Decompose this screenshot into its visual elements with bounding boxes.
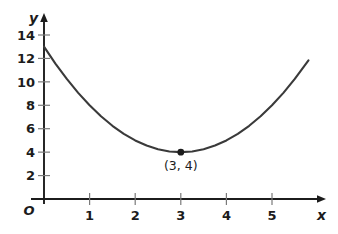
origin-label: O — [23, 203, 34, 218]
parabola-chart: y x O 2 4 6 8 10 12 14 — [0, 0, 338, 234]
x-tick-label: 2 — [131, 208, 140, 223]
x-tick-label: 3 — [176, 208, 185, 223]
y-tick-label: 10 — [17, 75, 35, 90]
x-axis-arrow-icon — [317, 195, 326, 203]
y-tick-label: 8 — [26, 98, 35, 113]
x-tick-label: 1 — [85, 208, 94, 223]
y-tick-label: 2 — [26, 168, 35, 183]
x-tick-labels: 1 2 3 4 5 — [85, 208, 276, 223]
y-tick-label: 14 — [17, 28, 35, 43]
y-tick-label: 4 — [26, 145, 35, 160]
y-tick-label: 6 — [26, 121, 35, 136]
chart-canvas: y x O 2 4 6 8 10 12 14 — [0, 0, 338, 234]
y-axis-label: y — [29, 10, 39, 26]
x-tick-label: 4 — [222, 208, 231, 223]
y-axis-arrow-icon — [40, 13, 48, 22]
y-tick-labels: 2 4 6 8 10 12 14 — [17, 28, 35, 184]
parabola-curve — [44, 47, 308, 152]
x-axis-label: x — [316, 207, 327, 223]
x-tick-label: 5 — [267, 208, 276, 223]
y-tick-label: 12 — [17, 51, 35, 66]
vertex-point-marker — [177, 149, 184, 156]
vertex-point-label: (3, 4) — [164, 158, 198, 173]
